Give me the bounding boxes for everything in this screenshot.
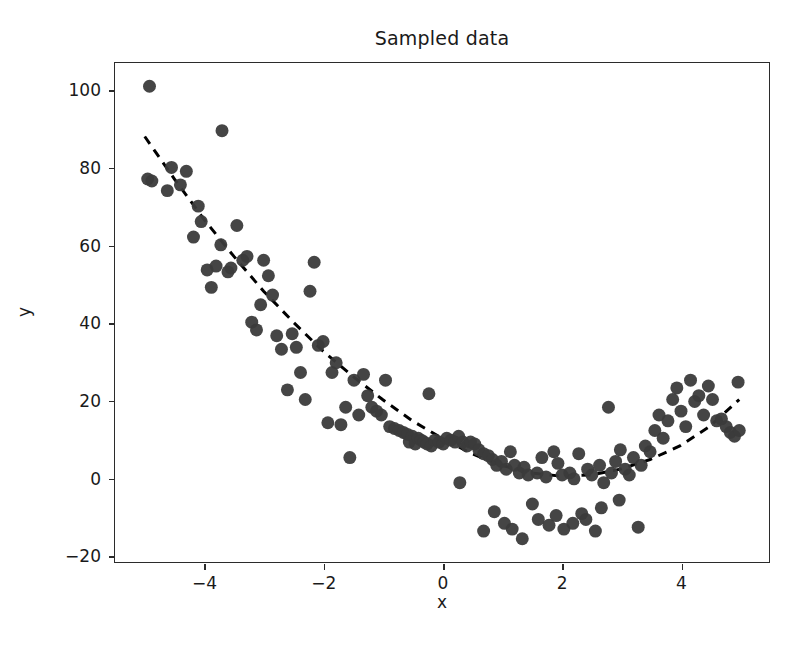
scatter-point <box>230 219 243 232</box>
plot-surface <box>115 63 769 562</box>
scatter-point <box>379 374 392 387</box>
y-tick-label: 80 <box>79 158 101 178</box>
scatter-point <box>187 231 200 244</box>
y-tick-label: −20 <box>65 546 101 566</box>
y-tick <box>109 479 115 481</box>
scatter-point <box>593 459 606 472</box>
y-tick <box>109 246 115 248</box>
scatter-point <box>330 356 343 369</box>
scatter-point <box>205 281 218 294</box>
scatter-point <box>361 389 374 402</box>
scatter-point <box>321 416 334 429</box>
chart-title: Sampled data <box>114 27 770 49</box>
scatter-point <box>254 298 267 311</box>
scatter-point <box>733 424 746 437</box>
plot-axes: −4−2024 −20020406080100 <box>114 62 770 563</box>
scatter-point <box>566 517 579 530</box>
fit-line-quadratic <box>145 136 740 476</box>
x-tick-label: 0 <box>438 573 449 593</box>
scatter-point <box>308 256 321 269</box>
scatter-point <box>551 457 564 470</box>
scatter-point <box>343 451 356 464</box>
scatter-point <box>697 409 710 422</box>
scatter-point <box>706 393 719 406</box>
scatter-point <box>516 532 529 545</box>
scatter-point <box>547 445 560 458</box>
scatter-point <box>670 381 683 394</box>
scatter-point <box>275 343 288 356</box>
scatter-point <box>241 250 254 263</box>
fit-line <box>145 136 740 476</box>
y-tick-label: 60 <box>79 236 101 256</box>
scatter-point <box>174 178 187 191</box>
scatter-point <box>286 327 299 340</box>
scatter-point <box>180 165 193 178</box>
scatter-point <box>294 366 307 379</box>
scatter-point <box>334 418 347 431</box>
scatter-point <box>422 387 435 400</box>
scatter-point <box>613 494 626 507</box>
x-tick <box>204 564 206 570</box>
y-tick-label: 100 <box>69 80 101 100</box>
scatter-point <box>281 383 294 396</box>
x-tick-label: −2 <box>311 573 336 593</box>
scatter-point <box>644 445 657 458</box>
scatter-point <box>657 432 670 445</box>
y-tick <box>109 556 115 558</box>
scatter-point <box>526 497 539 510</box>
scatter-point <box>506 523 519 536</box>
x-tick-label: 2 <box>557 573 568 593</box>
scatter-point <box>250 323 263 336</box>
scatter-point <box>270 329 283 342</box>
x-tick-label: 4 <box>676 573 687 593</box>
scatter-point <box>224 262 237 275</box>
scatter-point <box>299 393 312 406</box>
y-tick-label: 20 <box>79 391 101 411</box>
scatter-point <box>477 525 490 538</box>
scatter-point <box>661 414 674 427</box>
scatter-point <box>568 472 581 485</box>
scatter-point <box>595 501 608 514</box>
x-tick <box>682 564 684 570</box>
scatter-point <box>732 376 745 389</box>
x-tick <box>562 564 564 570</box>
scatter-point <box>602 401 615 414</box>
scatter-point <box>304 285 317 298</box>
scatter-point <box>635 459 648 472</box>
scatter-point <box>535 451 548 464</box>
scatter-point <box>161 184 174 197</box>
scatter-point <box>692 389 705 402</box>
scatter-point <box>165 161 178 174</box>
y-axis-label: y <box>14 307 34 317</box>
scatter-point <box>214 238 227 251</box>
scatter-point <box>623 468 636 481</box>
scatter-point <box>290 341 303 354</box>
scatter-point <box>216 124 229 137</box>
scatter-point <box>192 200 205 213</box>
x-tick-label: −4 <box>192 573 217 593</box>
scatter-point <box>453 476 466 489</box>
scatter-point <box>210 260 223 273</box>
scatter-point <box>195 215 208 228</box>
x-tick <box>324 564 326 570</box>
y-tick <box>109 168 115 170</box>
x-tick <box>443 564 445 570</box>
scatter-point <box>488 505 501 518</box>
y-tick <box>109 401 115 403</box>
scatter-point <box>257 254 270 267</box>
scatter-point <box>504 445 517 458</box>
scatter-point <box>352 409 365 422</box>
scatter-point <box>550 509 563 522</box>
scatter-point <box>614 443 627 456</box>
scatter-point <box>266 289 279 302</box>
x-axis-label: x <box>114 592 770 612</box>
y-tick-label: 40 <box>79 313 101 333</box>
y-tick <box>109 323 115 325</box>
scatter-point <box>572 447 585 460</box>
scatter-point <box>675 405 688 418</box>
scatter-point <box>262 269 275 282</box>
scatter-point <box>540 470 553 483</box>
plot-svg <box>115 63 769 562</box>
y-tick <box>109 90 115 92</box>
scatter-point <box>317 335 330 348</box>
